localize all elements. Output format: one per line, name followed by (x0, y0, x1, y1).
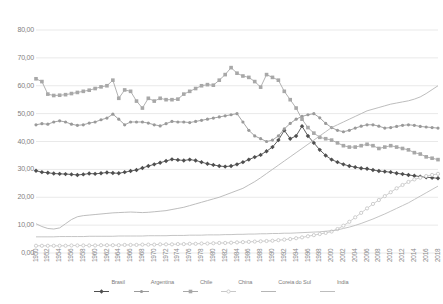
data-point (217, 164, 221, 168)
data-point (58, 244, 61, 247)
x-tick-label: 2010 (386, 249, 393, 262)
data-point (105, 244, 108, 247)
data-point (253, 240, 256, 243)
data-point (58, 93, 62, 97)
data-point (295, 118, 298, 121)
data-point (99, 118, 102, 121)
data-point (76, 244, 79, 247)
x-tick-label: 1956 (67, 249, 74, 262)
data-point (253, 80, 257, 84)
data-point (229, 164, 233, 168)
data-point (413, 151, 417, 155)
data-point (294, 134, 298, 138)
data-point (401, 147, 405, 151)
data-point (140, 289, 143, 292)
data-point (371, 202, 374, 205)
data-point (117, 118, 120, 121)
legend-label: Argentina (151, 279, 174, 285)
data-point (176, 97, 180, 101)
data-point (235, 71, 239, 75)
data-point (111, 78, 115, 82)
legend-item-china[interactable]: China (221, 279, 252, 285)
data-point (253, 155, 257, 159)
data-point (200, 84, 204, 88)
data-point (164, 122, 167, 125)
data-point (164, 98, 168, 102)
data-point (212, 83, 216, 87)
data-point (134, 168, 138, 172)
data-point (200, 119, 203, 122)
legend-swatch-icon (134, 280, 149, 285)
legend-item-india[interactable]: India (320, 279, 349, 285)
data-point (229, 113, 232, 116)
series-brasil (34, 124, 440, 181)
data-point (289, 122, 292, 125)
data-point (229, 66, 233, 70)
data-point (247, 76, 251, 80)
data-point (342, 130, 345, 133)
legend-swatch-icon (261, 280, 276, 285)
data-point (365, 123, 368, 126)
data-point (395, 145, 399, 149)
data-point (100, 289, 104, 293)
data-point (147, 96, 151, 100)
data-point (205, 162, 209, 166)
data-point (407, 180, 410, 183)
data-point (129, 90, 133, 94)
x-tick-label: 2012 (398, 249, 405, 262)
data-point (199, 160, 203, 164)
data-point (34, 244, 37, 247)
data-point (170, 98, 174, 102)
legend-item-argentina[interactable]: Argentina (134, 279, 174, 285)
x-tick-label: 1982 (221, 249, 228, 262)
data-point (223, 73, 227, 77)
legend-swatch-icon (183, 280, 198, 285)
data-point (371, 168, 375, 172)
data-point (188, 121, 191, 124)
data-point (194, 120, 197, 123)
data-point (235, 241, 238, 244)
data-point (300, 124, 304, 128)
x-tick-label: 1964 (114, 249, 121, 262)
data-point (123, 123, 126, 126)
data-point (58, 119, 61, 122)
data-point (69, 172, 73, 176)
data-point (341, 162, 345, 166)
x-tick-label: 1992 (280, 249, 287, 262)
data-point (336, 141, 340, 145)
data-point (122, 170, 126, 174)
data-point (335, 160, 339, 164)
gridlines (36, 30, 438, 253)
data-point (64, 120, 67, 123)
x-tick-label: 2016 (422, 249, 429, 262)
data-point (395, 187, 398, 190)
data-point (152, 99, 156, 103)
data-point (288, 98, 292, 102)
data-point (64, 93, 68, 97)
data-point (425, 125, 428, 128)
data-point (206, 118, 209, 121)
data-point (206, 83, 210, 87)
data-point (300, 236, 303, 239)
y-tick-label: 10,00 (0, 221, 34, 228)
x-tick-label: 1972 (162, 249, 169, 262)
data-point (170, 120, 173, 123)
legend-item-brasil[interactable]: Brasil (94, 279, 124, 285)
data-point (93, 172, 97, 176)
y-tick-label: 40,00 (0, 138, 34, 145)
x-tick-label: 1994 (292, 249, 299, 262)
data-point (247, 129, 250, 132)
legend-item-chile[interactable]: Chile (183, 279, 212, 285)
data-point (87, 171, 91, 175)
data-point (353, 165, 357, 169)
data-point (135, 243, 138, 246)
data-point (88, 122, 91, 125)
data-point (348, 220, 351, 223)
data-point (227, 289, 230, 292)
data-point (360, 125, 363, 128)
data-point (229, 241, 232, 244)
data-point (406, 173, 410, 177)
data-point (436, 176, 440, 180)
legend-item-coreia-do-sul[interactable]: Coreia do Sul (261, 279, 311, 285)
data-point (164, 243, 167, 246)
